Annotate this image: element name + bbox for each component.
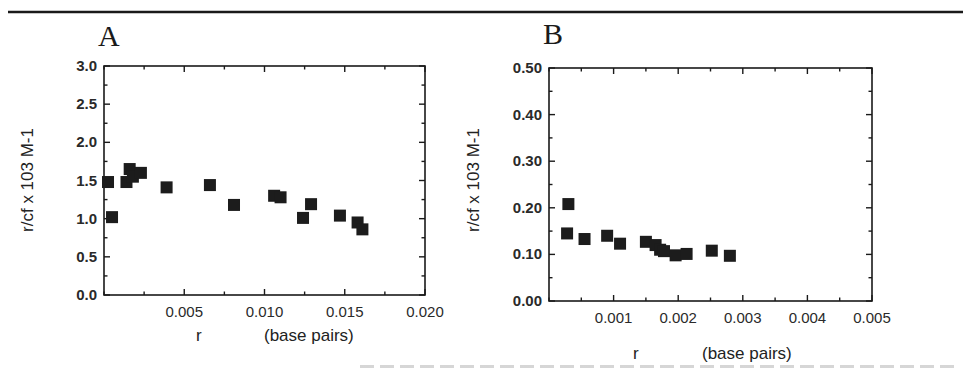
figure: A0.00.51.01.52.02.53.00.0050.0100.0150.0…: [0, 0, 966, 373]
chart-panel-a: A0.00.51.01.52.02.53.00.0050.0100.0150.0…: [18, 19, 444, 345]
y-tick-label: 0.40: [513, 106, 542, 123]
clipped-caption-text: [360, 365, 960, 368]
x-axis-title-r: r: [196, 326, 202, 345]
x-tick-label: 0.004: [789, 309, 827, 326]
y-tick-label: 0.30: [513, 152, 542, 169]
x-tick-label: 0.002: [659, 309, 697, 326]
y-tick-label: 0.5: [76, 248, 97, 265]
data-point-square: [204, 179, 216, 191]
data-point-square: [670, 249, 682, 261]
data-point-square: [579, 233, 591, 245]
x-tick-label: 0.015: [326, 303, 364, 320]
y-tick-label: 0.10: [513, 245, 542, 262]
data-point-square: [297, 212, 309, 224]
y-tick-label: 0.50: [513, 59, 542, 76]
y-tick-label: 2.5: [76, 95, 97, 112]
data-point-square: [706, 245, 718, 257]
y-tick-label: 3.0: [76, 57, 97, 74]
data-point-square: [356, 223, 368, 235]
panel-letter: B: [543, 17, 563, 50]
x-tick-label: 0.020: [406, 303, 444, 320]
data-point-square: [135, 167, 147, 179]
y-tick-label: 0.0: [76, 286, 97, 303]
data-point-square: [161, 181, 173, 193]
x-tick-label: 0.010: [246, 303, 284, 320]
data-point-square: [228, 199, 240, 211]
x-axis-title-r: r: [633, 344, 639, 363]
plot-frame: [549, 68, 872, 301]
data-point-square: [614, 238, 626, 250]
data-point-square: [658, 245, 670, 257]
data-point-square: [106, 211, 118, 223]
x-tick-label: 0.005: [165, 303, 203, 320]
data-point-square: [681, 248, 693, 260]
y-tick-label: 1.5: [76, 172, 97, 189]
x-axis-title-units: (base pairs): [702, 344, 792, 363]
x-tick-label: 0.003: [724, 309, 762, 326]
plot-frame: [104, 66, 425, 295]
x-tick-label: 0.005: [853, 309, 891, 326]
data-point-square: [561, 227, 573, 239]
x-tick-label: 0.001: [595, 309, 633, 326]
y-tick-label: 0.00: [513, 292, 542, 309]
y-tick-label: 0.20: [513, 199, 542, 216]
data-point-square: [562, 198, 574, 210]
y-axis-title: r/cf x 103 M-1: [18, 128, 37, 232]
data-point-square: [102, 176, 114, 188]
data-point-square: [724, 250, 736, 262]
data-point-square: [305, 198, 317, 210]
y-axis-title: r/cf x 103 M-1: [464, 128, 483, 232]
y-tick-label: 1.0: [76, 210, 97, 227]
chart-panel-b: B0.000.100.200.300.400.500.0010.0020.003…: [464, 17, 891, 363]
data-point-square: [601, 230, 613, 242]
y-tick-label: 2.0: [76, 133, 97, 150]
data-point-square: [334, 210, 346, 222]
x-axis-title-units: (base pairs): [264, 326, 354, 345]
data-point-square: [275, 191, 287, 203]
panel-letter: A: [98, 19, 120, 52]
